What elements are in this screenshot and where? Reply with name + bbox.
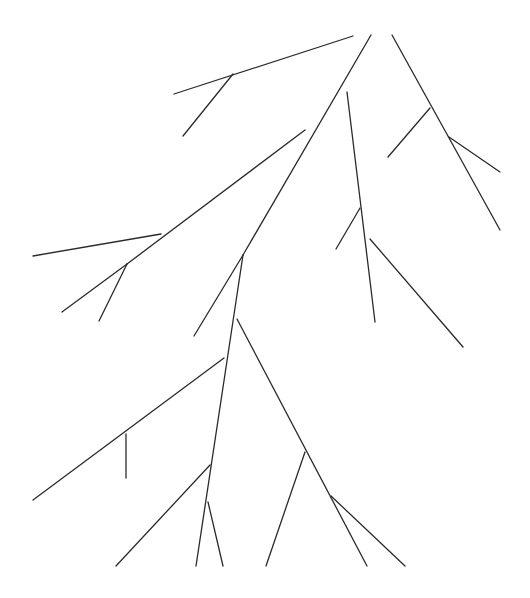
segment-right-arm-twig-right (449, 137, 500, 172)
segment-right-lower-twig-a (266, 452, 305, 566)
segment-left-arm (127, 130, 305, 264)
segment-bottom-left-branch (116, 465, 210, 566)
segment-mid-right-diagonal (370, 239, 463, 347)
segment-trunk-lower (196, 255, 243, 566)
segment-right-arm-twig-left (388, 108, 430, 157)
segment-mid-vertical-twig (336, 208, 360, 249)
segment-right-lower-twig-b (331, 496, 405, 566)
segment-trunk-upper-left (194, 255, 243, 336)
segment-left-arm-twig (99, 264, 127, 321)
segment-bottom-mid-twig (208, 502, 223, 566)
tree-diagram-canvas (0, 0, 530, 598)
segment-mid-vertical (347, 92, 375, 322)
segment-top-left-branch (174, 36, 353, 94)
segment-right-lower-branch (237, 319, 367, 566)
segment-left-arm-end (62, 264, 127, 312)
segment-left-lower-branch (33, 358, 224, 500)
